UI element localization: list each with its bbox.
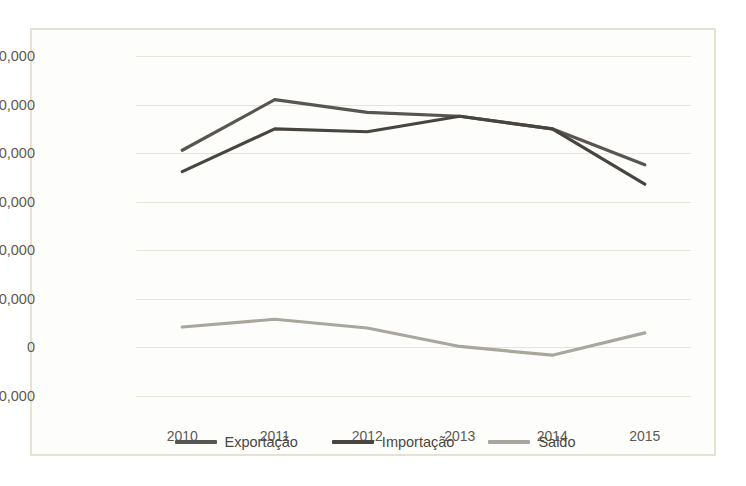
y-axis-tick-label: 150,000 bbox=[0, 194, 35, 210]
y-axis-tick-label: 50,000 bbox=[0, 291, 35, 307]
legend-label: Importação bbox=[382, 434, 455, 450]
chart-legend: ExportaçãoImportaçãoSaldo bbox=[32, 434, 718, 450]
y-axis-tick-label: 100,000 bbox=[0, 242, 35, 258]
y-axis-tick-label: 200,000 bbox=[0, 145, 35, 161]
plot-area: 300,000250,000200,000150,000100,00050,00… bbox=[136, 56, 691, 396]
legend-entry[interactable]: Importação bbox=[332, 434, 455, 450]
series-line bbox=[182, 319, 645, 355]
legend-label: Exportação bbox=[225, 434, 298, 450]
legend-color-swatch bbox=[488, 440, 530, 444]
series-line bbox=[182, 100, 645, 165]
y-axis-tick-label: -50,000 bbox=[0, 388, 35, 404]
legend-entry[interactable]: Exportação bbox=[175, 434, 298, 450]
series-lines-group bbox=[136, 56, 691, 396]
legend-label: Saldo bbox=[538, 434, 575, 450]
y-axis-tick-label: 300,000 bbox=[0, 48, 35, 64]
legend-color-swatch bbox=[175, 440, 217, 444]
gridline bbox=[136, 396, 691, 397]
chart-container: 300,000250,000200,000150,000100,00050,00… bbox=[30, 28, 716, 456]
y-axis-tick-label: 0 bbox=[0, 339, 35, 355]
legend-color-swatch bbox=[332, 440, 374, 444]
legend-entry[interactable]: Saldo bbox=[488, 434, 575, 450]
y-axis-tick-label: 250,000 bbox=[0, 97, 35, 113]
series-line bbox=[182, 116, 645, 184]
